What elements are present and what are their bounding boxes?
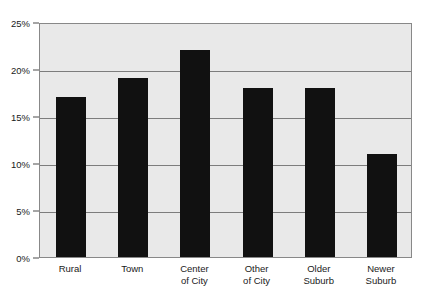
x-axis: RuralTownCenter of CityOther of CityOlde… [39,263,412,301]
y-tick-label: 5% [16,206,30,217]
x-tick-label: Rural [59,263,82,275]
bar [118,78,148,257]
y-tick-label: 20% [11,65,30,76]
bar [367,154,397,257]
y-tick-label: 0% [16,253,30,264]
bars-group [40,24,411,257]
bar [243,88,273,257]
bar [180,50,210,257]
x-tick-label: Newer Suburb [366,263,397,287]
x-tick-label: Older Suburb [303,263,334,287]
y-tick-label: 10% [11,159,30,170]
x-tick-label: Other of City [243,263,270,287]
y-axis: 0%5%10%15%20%25% [0,0,36,301]
bar-chart-figure: 0%5%10%15%20%25% RuralTownCenter of City… [0,0,424,301]
y-tick-label: 25% [11,18,30,29]
x-tick-label: Center of City [180,263,209,287]
plot-area [39,23,412,258]
bar [305,88,335,257]
y-tick-label: 15% [11,112,30,123]
chart-title [0,0,424,6]
x-tick-label: Town [121,263,143,275]
bar [56,97,86,257]
